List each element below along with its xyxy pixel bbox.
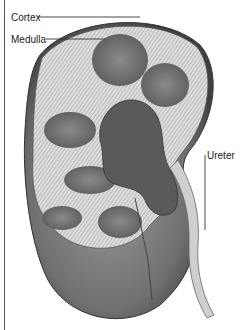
- ureter-label: Ureter: [207, 150, 235, 161]
- medulla-label: Medulla: [11, 34, 46, 45]
- cortex-label: Cortex: [11, 12, 40, 23]
- kidney-illustration: [0, 0, 243, 330]
